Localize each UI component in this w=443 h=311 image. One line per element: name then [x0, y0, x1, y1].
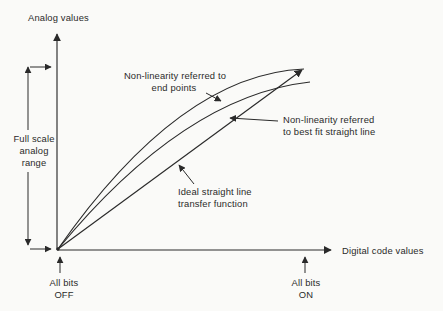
bestfit-leader-arrow — [230, 118, 278, 121]
full-scale-label-line2: analog — [19, 145, 48, 156]
all-bits-off-label-line2: OFF — [54, 289, 73, 300]
ideal-straight-line — [58, 70, 302, 249]
endpoints-leader-arrow — [206, 93, 221, 101]
endpoints-label-line2: end points — [152, 82, 197, 93]
all-bits-on-label-line1: All bits — [292, 277, 321, 288]
diagram-canvas: Analog values Digital code values Non-li… — [0, 0, 443, 311]
x-axis-label: Digital code values — [342, 245, 424, 256]
bestfit-label-line2: to best fit straight line — [283, 126, 375, 137]
ideal-label-line2: transfer function — [178, 198, 248, 209]
ideal-label-line1: Ideal straight line — [178, 186, 252, 197]
y-axis-label: Analog values — [28, 12, 89, 23]
bestfit-label-line1: Non-linearity referred — [283, 114, 374, 125]
transfer-function-diagram: Analog values Digital code values Non-li… — [0, 0, 443, 311]
all-bits-off-label-line1: All bits — [50, 277, 79, 288]
endpoints-label-line1: Non-linearity referred to — [124, 70, 226, 81]
best-fit-curve — [58, 82, 310, 249]
all-bits-on-label-line2: ON — [299, 289, 313, 300]
ideal-leader-arrow — [179, 165, 194, 184]
full-scale-label-line1: Full scale — [13, 133, 54, 144]
full-scale-label-line3: range — [22, 157, 47, 168]
